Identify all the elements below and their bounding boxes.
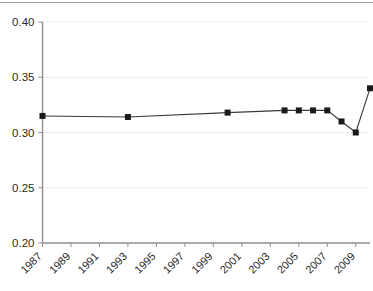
x-tick-label: 2007 (303, 250, 329, 276)
x-tick-label: 1995 (132, 250, 158, 276)
x-tick-label: 2001 (217, 250, 243, 276)
data-point-marker (282, 107, 288, 113)
x-tick-label: 1989 (47, 250, 73, 276)
gridlines-group (43, 22, 371, 188)
x-tick-label: 1993 (104, 250, 130, 276)
x-tick-label: 1987 (18, 250, 44, 276)
x-tick-labels-group: 1987198919911993199519971999200120032005… (18, 250, 357, 276)
y-tick-labels-group: 0.200.250.300.350.40 (12, 16, 34, 249)
series-1-line (43, 88, 371, 132)
y-tick-label: 0.30 (12, 127, 34, 139)
x-tick-label: 2003 (246, 250, 272, 276)
x-tick-label: 1991 (75, 250, 101, 276)
data-point-marker (339, 118, 345, 124)
data-point-marker (353, 130, 359, 136)
x-tick-label: 2009 (331, 250, 357, 276)
x-tick-label: 1997 (161, 250, 187, 276)
data-point-marker (40, 113, 46, 119)
data-point-marker (310, 107, 316, 113)
y-tick-label: 0.40 (12, 16, 34, 28)
y-tick-label: 0.20 (12, 237, 34, 249)
data-point-marker (367, 85, 373, 91)
data-point-marker (225, 110, 231, 116)
data-point-marker (296, 107, 302, 113)
data-point-marker (125, 114, 131, 120)
y-tick-label: 0.25 (12, 182, 34, 194)
line-chart-plot: 0.200.250.300.350.40 1987198919911993199… (0, 0, 373, 291)
x-tick-label: 2005 (274, 250, 300, 276)
data-point-marker (324, 107, 330, 113)
y-axis-group: 0.200.250.300.350.40 (12, 16, 42, 249)
x-tick-label: 1999 (189, 250, 215, 276)
y-tick-label: 0.35 (12, 71, 34, 83)
chart-container: 0.200.250.300.350.40 1987198919911993199… (0, 0, 373, 291)
data-series-group (40, 85, 373, 135)
x-axis-group: 1987198919911993199519971999200120032005… (18, 243, 370, 276)
